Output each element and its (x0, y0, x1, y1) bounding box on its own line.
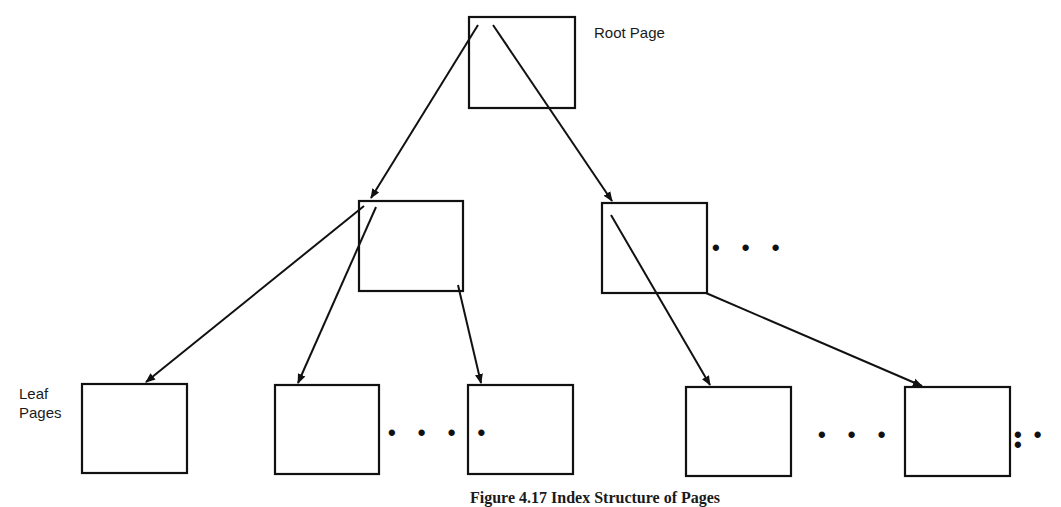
edge-mid-left-to-leaf-1 (146, 206, 364, 382)
ellipsis-mid-right: • • • (712, 243, 787, 253)
edge-mid-left-to-leaf-3 (458, 285, 481, 383)
ellipsis-leaf-2-3: • • • • (388, 428, 493, 438)
internal-page-box-left (359, 201, 463, 291)
internal-page-box-right (602, 203, 707, 293)
figure-caption: Figure 4.17 Index Structure of Pages (470, 489, 720, 507)
ellipsis-leaf-4-5: • • • (818, 430, 893, 440)
root-page-label: Root Page (594, 23, 665, 42)
edge-root-to-mid-right (493, 25, 612, 201)
edge-root-to-mid-left (371, 25, 478, 198)
edge-mid-right-to-leaf-5 (706, 293, 922, 386)
leaf-pages-label-line1: Leaf (19, 384, 62, 403)
leaf-page-box-1 (82, 384, 187, 473)
edge-mid-left-to-leaf-2 (298, 207, 376, 383)
leaf-page-box-2 (275, 385, 379, 474)
root-page-box (469, 17, 575, 108)
leaf-pages-label-line2: Pages (19, 403, 62, 422)
ellipsis-leaf-end: • • • (1014, 430, 1061, 450)
leaf-pages-label: Leaf Pages (19, 384, 62, 422)
leaf-page-box-5 (905, 387, 1010, 476)
edge-mid-right-to-leaf-4 (611, 215, 710, 385)
leaf-page-box-4 (686, 387, 791, 476)
